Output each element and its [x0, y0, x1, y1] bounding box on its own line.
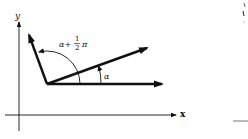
label-frac-denominator: 2	[75, 44, 79, 52]
alpha-arc	[99, 66, 102, 84]
x-axis-label: x	[180, 109, 186, 119]
vector-at-alpha-plus-half-pi	[29, 35, 47, 84]
vector-at-alpha	[47, 48, 147, 84]
alpha-plus-half-pi-label: α+ 1 2 π	[59, 35, 88, 52]
label-frac-numerator: 1	[75, 35, 79, 43]
alpha-label: α	[104, 72, 110, 81]
adjacent-figure-fragment	[233, 3, 248, 121]
rotation-diagram: y x α α+ 1 2	[0, 0, 248, 139]
y-axis-label: y	[14, 11, 21, 21]
label-suffix: π	[81, 40, 88, 49]
label-prefix: α+	[59, 40, 71, 49]
